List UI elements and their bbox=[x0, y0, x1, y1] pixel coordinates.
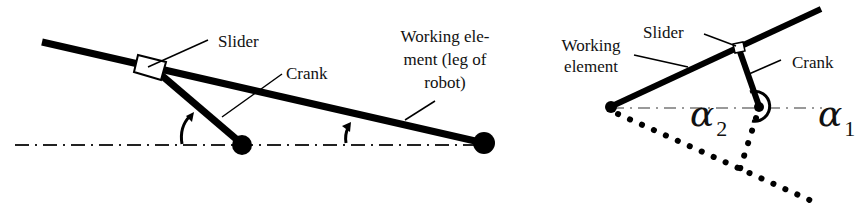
left-working-element-label-line3: robot) bbox=[375, 73, 515, 92]
left-slider-block bbox=[134, 55, 166, 80]
left-element-angle-arrow-icon bbox=[342, 122, 351, 143]
left-crank-label: Crank bbox=[286, 64, 328, 83]
left-slider-label: Slider bbox=[218, 32, 259, 51]
right-working-element-label-line1: Working bbox=[556, 36, 626, 55]
right-crank-pivot bbox=[754, 102, 764, 112]
right-slider-leader bbox=[704, 34, 736, 46]
left-working-element-label-line2: ment (leg of bbox=[375, 50, 515, 69]
left-crank-pivot bbox=[232, 135, 252, 155]
right-working-element-pivot bbox=[605, 101, 617, 113]
left-working-element-label-line1: Working ele- bbox=[375, 27, 515, 46]
alpha2-label: α2 bbox=[690, 96, 727, 147]
alpha1-symbol: α bbox=[818, 93, 842, 134]
right-slider-label: Slider bbox=[643, 23, 684, 42]
right-crank-leader bbox=[749, 60, 781, 74]
right-working-element-leader bbox=[634, 55, 688, 67]
right-dotted-crank-position bbox=[739, 118, 756, 172]
right-crank-label: Crank bbox=[792, 53, 834, 72]
left-slider-leader bbox=[148, 40, 208, 67]
left-working-element-leader bbox=[405, 101, 435, 120]
left-working-element-pivot bbox=[473, 132, 495, 154]
alpha1-subscript: 1 bbox=[844, 116, 855, 141]
left-crank-angle-arrow-icon bbox=[181, 112, 194, 144]
right-crank-bar bbox=[739, 49, 759, 106]
right-working-element-bar bbox=[610, 9, 821, 107]
right-slider-block bbox=[733, 42, 745, 53]
alpha2-subscript: 2 bbox=[716, 116, 727, 141]
alpha2-symbol: α bbox=[690, 93, 714, 134]
right-working-element-label-line2: element bbox=[556, 57, 626, 76]
alpha1-label: α1 bbox=[818, 96, 855, 147]
